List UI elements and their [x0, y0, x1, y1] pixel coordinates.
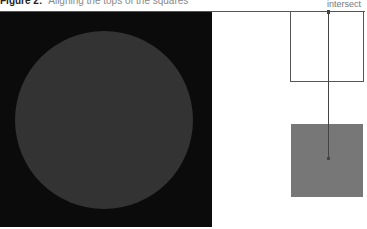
- diagram-canvas: [0, 0, 367, 229]
- intersect-label: intersect: [327, 0, 361, 9]
- outline-rectangle: [291, 12, 364, 82]
- intersect-marker: [327, 10, 330, 14]
- line-end-marker: [327, 157, 330, 160]
- gray-square: [291, 124, 363, 197]
- gray-circle: [15, 31, 193, 209]
